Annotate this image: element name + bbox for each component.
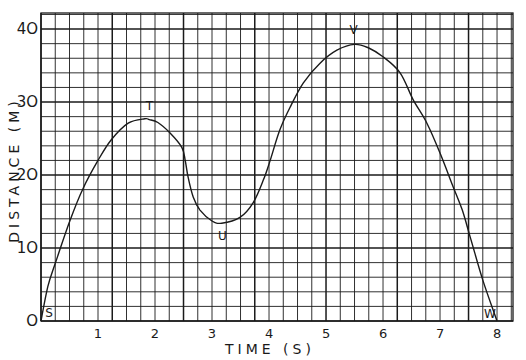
x-tick-label: 6 [379,326,387,341]
point-label-s: S [45,306,53,320]
point-label-v: V [349,23,358,37]
y-axis-label: DISTANCE (M) [6,97,22,242]
y-tick-label: 4O [17,20,38,38]
y-tick-label: O [26,312,38,330]
x-tick-label: 5 [322,326,330,341]
distance-time-chart: O1O2O3O4O 12345678 STUVW TIME (S) DISTAN… [0,0,526,360]
x-tick-label: 1 [94,326,102,341]
x-tick-label: 3 [208,326,216,341]
x-tick-label: 7 [436,326,444,341]
x-tick-label: 2 [151,326,159,341]
point-label-w: W [484,307,496,321]
x-tick-label: 8 [493,326,501,341]
point-label-t: T [145,99,154,113]
x-axis-tick-labels: 12345678 [94,326,501,341]
x-tick-label: 4 [265,326,273,341]
grid-major-lines [41,13,513,321]
point-label-u: U [218,229,227,243]
x-axis-label: TIME (S) [224,341,315,357]
